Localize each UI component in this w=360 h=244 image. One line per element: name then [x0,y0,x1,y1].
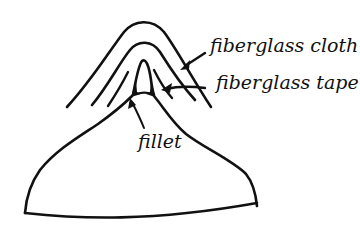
hull-body-outline [25,96,132,213]
hull-body-bottom [25,203,257,218]
label-fillet: fillet [136,130,182,152]
label-fiberglass-cloth: fiberglass cloth [208,34,358,56]
fiberglass-tape-right-outer [154,70,172,98]
fillet-top-edge [136,93,152,95]
label-fiberglass-tape: fiberglass tape [214,71,359,93]
seam-cross-section-diagram: fiberglass cloth fiberglass tape fillet [0,0,360,244]
fillet-arrow [128,98,144,128]
fiberglass-cloth-inner-layer [92,43,195,105]
